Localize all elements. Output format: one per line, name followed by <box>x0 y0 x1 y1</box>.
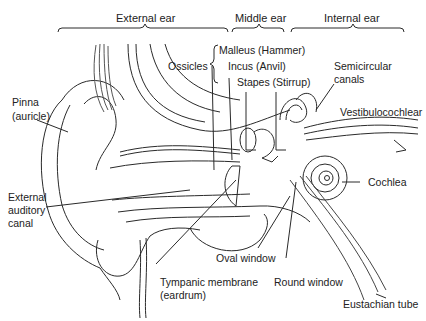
label-eustachian-tube: Eustachian tube <box>343 298 418 310</box>
internal-ear-bracket <box>291 24 404 32</box>
label-semicircular-canals-2: canals <box>334 73 364 85</box>
label-malleus: Malleus (Hammer) <box>219 44 305 56</box>
external-ear-bracket <box>58 24 228 32</box>
label-round-window: Round window <box>274 276 343 288</box>
ossicles-brace <box>210 45 218 83</box>
label-external-auditory-canal-2: auditory <box>8 204 45 216</box>
label-oval-window: Oval window <box>216 252 276 264</box>
section-label-middle-ear: Middle ear <box>235 12 286 24</box>
label-vestibulocochlear: Vestibulocochlear <box>340 106 422 118</box>
label-pinna-2: (auricle) <box>12 110 50 122</box>
section-label-external-ear: External ear <box>116 12 175 24</box>
middle-ear-bracket <box>232 24 284 32</box>
ear-anatomy-illustration <box>0 0 426 321</box>
label-ossicles: Ossicles <box>168 60 208 72</box>
label-stapes: Stapes (Stirrup) <box>237 76 311 88</box>
label-pinna-1: Pinna <box>12 96 39 108</box>
label-cochlea: Cochlea <box>368 176 407 188</box>
label-external-auditory-canal-3: canal <box>8 217 33 229</box>
label-incus: Incus (Anvil) <box>228 60 286 72</box>
section-label-internal-ear: Internal ear <box>324 12 380 24</box>
label-external-auditory-canal-1: External <box>8 191 47 203</box>
label-tympanic-membrane-1: Tympanic membrane <box>160 276 258 288</box>
label-semicircular-canals-1: Semicircular <box>334 60 392 72</box>
label-tympanic-membrane-2: (eardrum) <box>160 289 206 301</box>
